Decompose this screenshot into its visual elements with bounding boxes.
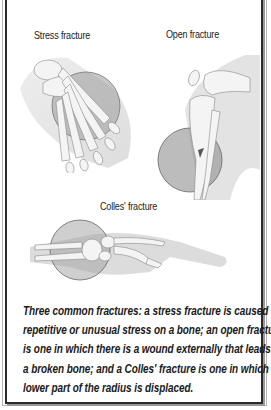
caption-line: Three common fractures: a stress fractur… (23, 302, 253, 321)
wrist-hand-bones-icon (30, 212, 235, 287)
stress-fracture-label: Stress fracture (34, 29, 90, 41)
open-fracture-label: Open fracture (166, 28, 219, 40)
caption-line: a broken bone; and a Colles' fracture is… (23, 360, 253, 379)
figure-caption: Three common fractures: a stress fractur… (23, 302, 253, 398)
foot-bones-icon (18, 48, 138, 173)
caption-line: lower part of the radius is displaced. (23, 379, 253, 398)
colles-fracture-label: Colles' fracture (100, 200, 157, 212)
caption-line: is one in which there is a wound externa… (23, 340, 253, 359)
caption-line: repetitive or unusual stress on a bone; … (23, 321, 253, 340)
knee-leg-bones-icon (150, 50, 260, 200)
